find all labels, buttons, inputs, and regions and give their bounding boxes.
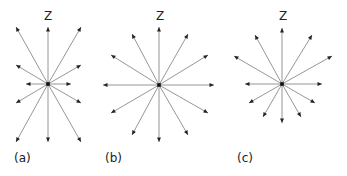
arrow-ray xyxy=(48,65,81,84)
arrowhead-icon xyxy=(280,119,284,124)
arrowhead-icon xyxy=(111,55,116,59)
arrow-ray xyxy=(282,35,312,84)
arrow-ray xyxy=(48,27,81,84)
panel-label-b: (b) xyxy=(105,151,122,165)
arrow-ray xyxy=(16,84,48,142)
arrowhead-icon xyxy=(157,27,161,32)
arrowhead-icon xyxy=(157,138,161,143)
origin-point xyxy=(46,82,50,86)
panel-label-c: (c) xyxy=(237,151,253,165)
arrow-ray xyxy=(255,35,282,84)
arrow-ray xyxy=(48,84,81,142)
panel-label-a: (a) xyxy=(14,151,31,165)
arrow-ray xyxy=(282,84,315,103)
arrow-rays-c xyxy=(234,28,332,123)
diagram-a: Z (a) xyxy=(14,9,81,165)
arrowhead-icon xyxy=(210,83,215,87)
arrow-ray xyxy=(234,56,282,84)
arrow-ray xyxy=(159,85,208,113)
z-axis-label-a: Z xyxy=(44,9,52,23)
arrow-rays-b xyxy=(103,27,214,142)
origin-point xyxy=(157,83,161,87)
diagram-b: Z (b) xyxy=(103,9,214,165)
arrow-ray xyxy=(16,65,48,84)
arrow-ray xyxy=(282,56,332,84)
arrowhead-icon xyxy=(318,82,323,86)
arrowhead-icon xyxy=(245,82,250,86)
arrow-ray xyxy=(249,84,282,103)
arrow-ray xyxy=(282,84,301,117)
arrowhead-icon xyxy=(26,82,31,86)
arrowhead-icon xyxy=(67,82,72,86)
arrow-ray xyxy=(263,84,282,117)
arrowhead-icon xyxy=(280,28,284,33)
origin-point xyxy=(280,82,284,86)
arrowhead-icon xyxy=(46,27,50,32)
diagram-canvas: Z (a) Z (b) Z (c) xyxy=(0,0,347,176)
diagram-c: Z (c) xyxy=(234,9,332,165)
arrow-ray xyxy=(16,27,48,84)
arrow-ray xyxy=(111,55,159,85)
arrowhead-icon xyxy=(103,83,108,87)
arrowhead-icon xyxy=(46,138,50,143)
arrow-rays-a xyxy=(16,27,81,142)
arrow-ray xyxy=(159,85,188,135)
arrow-ray xyxy=(159,55,208,85)
z-axis-label-c: Z xyxy=(279,9,287,23)
arrow-ray xyxy=(159,34,188,85)
arrow-ray xyxy=(132,34,159,85)
z-axis-label-b: Z xyxy=(156,9,164,23)
